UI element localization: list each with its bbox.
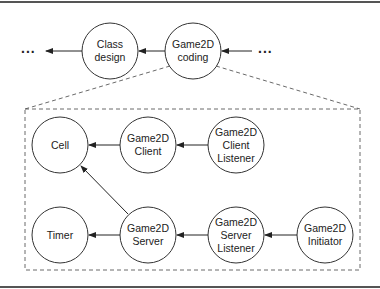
- label-game2d-client: Game2DClient: [120, 132, 176, 158]
- zoom-line-right: [216, 66, 360, 109]
- right-ellipsis: ...: [258, 40, 273, 56]
- label-cell: Cell: [32, 139, 88, 152]
- label-game2d-server: Game2DServer: [120, 222, 176, 248]
- edge-server-to-cell: [81, 166, 128, 214]
- label-timer: Timer: [32, 229, 88, 242]
- label-game2d-client-listener: Game2DClientListener: [208, 126, 264, 165]
- label-game2d-initiator: Game2DInitiator: [297, 222, 353, 248]
- label-game2d-server-listener: Game2DServerListener: [208, 216, 264, 255]
- label-game2d-coding: Game2Dcoding: [165, 38, 221, 64]
- label-class-design: Classdesign: [82, 38, 138, 64]
- left-ellipsis: ...: [21, 40, 36, 56]
